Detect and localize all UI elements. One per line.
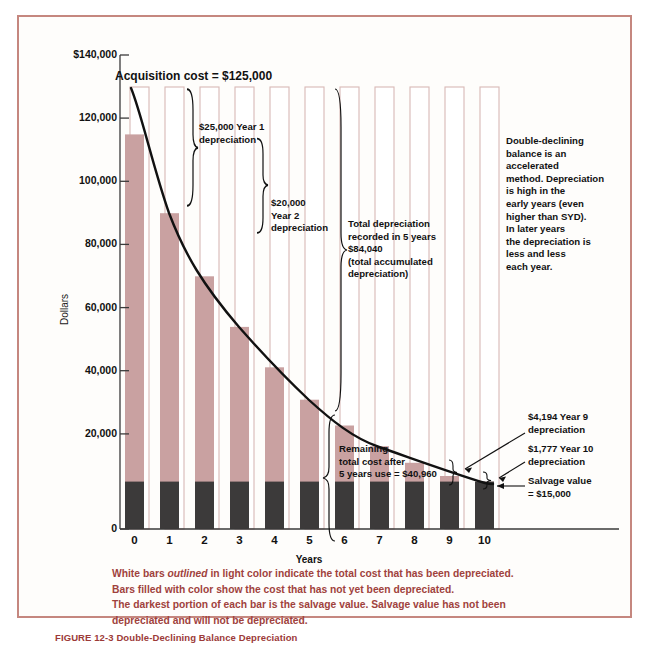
x-tick-label: 0 (119, 534, 150, 546)
footnote-line-3: The darkest portion of each bar is the s… (112, 597, 582, 613)
x-tick-label: 9 (434, 534, 465, 546)
annotation-year1-depreciation: $25,000 Year 1 depreciation (199, 121, 264, 146)
x-tick-label: 4 (259, 534, 290, 546)
brace-year1 (187, 89, 198, 206)
y-tick-label: 0 (21, 522, 117, 534)
x-tick-label: 7 (364, 534, 395, 546)
y-tick-label: 80,000 (21, 237, 117, 249)
footnote-line-2: Bars filled with color show the cost tha… (112, 582, 582, 598)
figure-title: Double-Declining Balance Depreciation (116, 632, 297, 643)
figure-number: FIGURE 12-3 (55, 632, 114, 643)
footnote-line-4: depreciated and will not be depreciated. (112, 613, 582, 629)
x-tick-label: 3 (224, 534, 255, 546)
chart-footnote-legend: White bars outlined in light color indic… (112, 566, 582, 628)
x-tick-label: 2 (189, 534, 220, 546)
annotation-year9-depreciation: $4,194 Year 9 depreciation (528, 411, 588, 436)
brace-remaining-cost (323, 415, 335, 541)
y-tick-label: 40,000 (21, 364, 117, 376)
annotation-year2-depreciation: $20,000 Year 2 depreciation (271, 197, 328, 235)
figure-frame: $140,000 120,000 100,000 80,000 60,000 4… (17, 15, 632, 618)
annotation-method-note: Double-declining balance is an accelerat… (506, 135, 604, 274)
y-tick-label: $140,000 (21, 48, 117, 60)
x-axis-title: Years (274, 554, 344, 565)
annotation-year10-depreciation: $1,777 Year 10 depreciation (528, 443, 593, 468)
footnote-line-1-text: White bars outlined in light color indic… (112, 568, 514, 579)
y-tick-label: 120,000 (21, 111, 117, 123)
x-tick-label: 1 (154, 534, 185, 546)
footnote-line-3-text: The darkest portion of each bar is the s… (112, 599, 506, 610)
y-tick-label: 100,000 (21, 174, 117, 186)
footnote-line-4-text: depreciated and will not be depreciated. (112, 615, 308, 626)
footnote-line-1: White bars outlined in light color indic… (112, 566, 582, 582)
y-tick-label: 20,000 (21, 427, 117, 439)
x-tick-label: 5 (294, 534, 325, 546)
x-tick-label: 6 (329, 534, 360, 546)
chart-plot-area: $140,000 120,000 100,000 80,000 60,000 4… (19, 17, 630, 616)
annotation-remaining-cost: Remaining total cost after 5 years use =… (339, 443, 437, 481)
y-axis-title: Dollars (59, 294, 70, 325)
x-tick-label: 8 (399, 534, 430, 546)
footnote-line-2-text: Bars filled with color show the cost tha… (112, 584, 454, 595)
annotation-acquisition-cost: Acquisition cost = $125,000 (115, 70, 272, 83)
annotation-total-depreciation-5yr: Total depreciation recorded in 5 years $… (348, 218, 436, 281)
x-tick-label: 10 (469, 534, 500, 546)
figure-caption: FIGURE 12-3 Double-Declining Balance Dep… (55, 632, 297, 643)
brace-year2 (257, 139, 268, 233)
annotation-salvage-value: Salvage value = $15,000 (528, 475, 591, 500)
